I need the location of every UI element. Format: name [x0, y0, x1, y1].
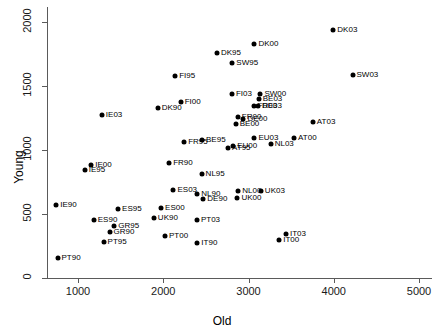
data-point — [89, 162, 94, 167]
data-point — [284, 231, 289, 236]
data-point-label: DE90 — [207, 195, 227, 203]
y-axis-tick — [42, 22, 47, 23]
data-point — [331, 28, 336, 33]
data-point — [252, 136, 257, 141]
data-point-label: FR03 — [258, 102, 278, 110]
data-point — [235, 115, 240, 120]
data-point-label: SW95 — [236, 59, 258, 67]
x-axis-tick-label: 1000 — [66, 286, 90, 297]
data-point-label: SW03 — [357, 71, 379, 79]
x-axis-tick — [419, 278, 420, 283]
x-axis-tick-label: 4000 — [322, 286, 346, 297]
data-point-label: BE95 — [206, 136, 226, 144]
data-point — [112, 224, 117, 229]
data-point-label: DK95 — [221, 49, 241, 57]
data-point — [233, 121, 238, 126]
data-point-label: IE03 — [106, 111, 122, 119]
data-point — [200, 137, 205, 142]
x-axis-tick-label: 5000 — [407, 286, 431, 297]
data-point — [268, 142, 273, 147]
x-axis-tick — [249, 278, 250, 283]
data-point — [277, 237, 282, 242]
data-point-label: IT03 — [290, 230, 306, 238]
data-point-label: IE90 — [60, 201, 76, 209]
data-point — [195, 191, 200, 196]
data-point-label: FR90 — [173, 159, 193, 167]
x-axis-line — [47, 278, 432, 279]
data-point — [230, 60, 235, 65]
data-point-label: FI95 — [179, 72, 195, 80]
data-point — [54, 203, 59, 208]
y-axis-tick — [42, 150, 47, 151]
data-point-label: IE00 — [95, 161, 111, 169]
data-point — [235, 196, 240, 201]
y-axis-tick-label: 500 — [22, 199, 33, 227]
data-point — [159, 206, 164, 211]
y-axis-tick-label: 1500 — [22, 71, 33, 99]
data-point — [252, 41, 257, 46]
data-point-label: DK90 — [162, 104, 182, 112]
data-point — [173, 73, 178, 78]
data-point — [194, 217, 199, 222]
data-point — [162, 233, 167, 238]
data-point — [201, 196, 206, 201]
data-point-label: PT95 — [108, 238, 127, 246]
data-point — [195, 241, 200, 246]
data-point — [231, 143, 236, 148]
data-point — [251, 103, 256, 108]
data-point-label: DK03 — [337, 26, 357, 34]
x-axis-tick — [78, 278, 79, 283]
data-point — [236, 188, 241, 193]
x-axis-tick-label: 3000 — [236, 286, 260, 297]
data-point — [91, 217, 96, 222]
data-point-label: PT03 — [201, 216, 220, 224]
data-point-label: UK00 — [241, 194, 261, 202]
data-point-label: ES95 — [122, 205, 142, 213]
data-point-label: UK90 — [158, 214, 178, 222]
data-point-label: NL00 — [242, 187, 261, 195]
data-point — [155, 105, 160, 110]
data-point — [107, 229, 112, 234]
data-point-label: FI03 — [236, 90, 252, 98]
data-point-label: FR95 — [188, 138, 208, 146]
y-axis-tick — [42, 214, 47, 215]
data-point — [229, 92, 234, 97]
x-axis-tick-label: 2000 — [151, 286, 175, 297]
data-point — [82, 168, 87, 173]
data-point — [292, 136, 297, 141]
data-point-label: ES90 — [98, 216, 118, 224]
y-axis-title: Young — [13, 150, 25, 184]
data-point-label: FR00 — [242, 113, 262, 121]
data-point-label: IT90 — [201, 239, 217, 247]
y-axis-tick-label: 2000 — [22, 7, 33, 35]
plot-area: 100020003000400050000500100015002000PT90… — [0, 0, 444, 333]
data-point-label: PT00 — [169, 232, 188, 240]
data-point-label: PT90 — [62, 254, 81, 262]
data-point — [199, 172, 204, 177]
data-point — [99, 113, 104, 118]
data-point-label: AT03 — [317, 118, 336, 126]
data-point-label: AT00 — [298, 134, 317, 142]
data-point-label: EU00 — [237, 142, 257, 150]
data-point — [182, 139, 187, 144]
data-point-label: GR95 — [118, 222, 139, 230]
x-axis-tick — [334, 278, 335, 283]
x-axis-tick — [163, 278, 164, 283]
data-point — [171, 187, 176, 192]
data-point-label: ES00 — [165, 204, 185, 212]
data-point — [101, 240, 106, 245]
data-point — [214, 51, 219, 56]
data-point — [167, 160, 172, 165]
scatter-chart: 100020003000400050000500100015002000PT90… — [0, 0, 444, 333]
y-axis-tick — [42, 278, 47, 279]
data-point-label: EU03 — [258, 134, 278, 142]
y-axis-tick — [42, 86, 47, 87]
x-axis-title: Old — [0, 315, 444, 327]
data-point — [310, 120, 315, 125]
data-point-label: FI00 — [185, 98, 201, 106]
data-point-label: DK00 — [258, 40, 278, 48]
y-axis-line — [47, 7, 48, 278]
data-point — [55, 255, 60, 260]
data-point — [151, 215, 156, 220]
data-point-label: NL95 — [206, 170, 225, 178]
